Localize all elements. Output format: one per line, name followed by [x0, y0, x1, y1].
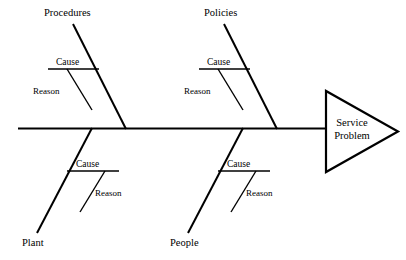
branch-policies-cause-label: Cause [207, 57, 230, 67]
branch-procedures-reason-line [67, 69, 92, 110]
problem-head-label-line1: Service [336, 117, 368, 128]
problem-head-label-line2: Problem [334, 130, 370, 141]
branch-people-rib [188, 128, 243, 233]
branch-procedures: Procedures Cause Reason [33, 7, 126, 129]
branch-policies-reason-label: Reason [184, 86, 211, 96]
branch-policies-rib [224, 24, 277, 129]
branch-people-cause-label: Cause [227, 159, 250, 169]
branch-people: People Cause Reason [170, 128, 273, 248]
branch-policies-reason-line [218, 69, 243, 110]
branch-plant: Plant Cause Reason [22, 128, 122, 248]
branch-plant-cause-label: Cause [76, 159, 99, 169]
branch-policies: Policies Cause Reason [184, 7, 277, 129]
branch-plant-reason-label: Reason [95, 188, 122, 198]
branch-procedures-cause-label: Cause [56, 57, 79, 67]
branch-procedures-reason-label: Reason [33, 86, 60, 96]
branch-people-label: People [170, 237, 199, 248]
branch-people-reason-label: Reason [246, 188, 273, 198]
branch-plant-rib [37, 128, 92, 233]
branch-plant-label: Plant [22, 237, 44, 248]
branch-procedures-rib [73, 24, 126, 129]
branch-policies-label: Policies [204, 7, 237, 18]
branch-procedures-label: Procedures [44, 7, 91, 18]
fishbone-diagram-canvas: Service Problem Procedures Cause Reason … [0, 0, 406, 260]
fishbone-diagram-svg: Service Problem Procedures Cause Reason … [0, 0, 406, 260]
